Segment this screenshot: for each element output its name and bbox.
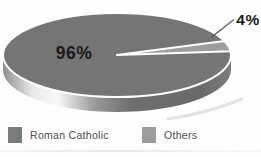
page-edge-artifact (0, 150, 261, 152)
chart-legend: Roman Catholic Others (0, 126, 261, 146)
slice-label-majority: 96% (56, 43, 93, 63)
legend-label-roman-catholic: Roman Catholic (30, 129, 109, 141)
legend-item-roman-catholic: Roman Catholic (8, 126, 109, 144)
legend-label-others: Others (164, 129, 197, 141)
legend-swatch-roman-catholic (8, 127, 22, 143)
legend-item-others: Others (142, 126, 197, 144)
legend-swatch-others (142, 127, 156, 143)
leader-line (211, 20, 234, 38)
slice-label-minority: 4% (236, 11, 259, 28)
pie-chart-figure: 96% 4% Roman Catholic Others (0, 0, 261, 157)
